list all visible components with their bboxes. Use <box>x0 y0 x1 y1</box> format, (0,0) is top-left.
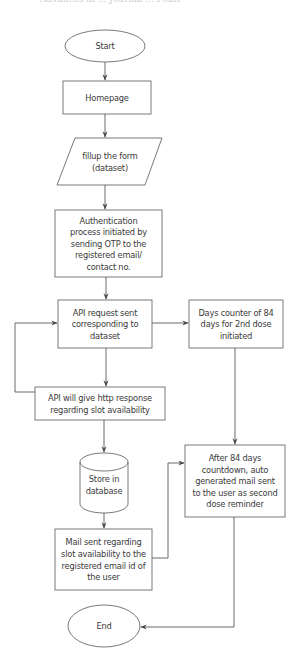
mail-sent-label: Mail sent regarding slot availability to… <box>55 529 152 590</box>
store-database-label: Store in database <box>80 468 128 502</box>
after-84-days-label: After 84 days countdown, auto generated … <box>185 445 285 517</box>
end-label: End <box>68 605 140 647</box>
fillup-form-label: fillup the form (dataset) <box>66 140 154 184</box>
api-request-label: API request sent corresponding to datase… <box>58 300 152 348</box>
api-response-label: API will give http response regarding sl… <box>35 387 165 420</box>
days-counter-label: Days counter of 84 days for 2nd dose ini… <box>189 300 283 348</box>
arrow-mail-to-after-84-days <box>152 463 184 558</box>
authentication-label: Authentication process initiated by send… <box>55 210 162 277</box>
arrow-after-84-days-to-end <box>141 517 234 627</box>
homepage-label: Homepage <box>63 81 151 114</box>
arrow-response-loop-back <box>15 323 57 392</box>
start-label: Start <box>65 30 145 62</box>
